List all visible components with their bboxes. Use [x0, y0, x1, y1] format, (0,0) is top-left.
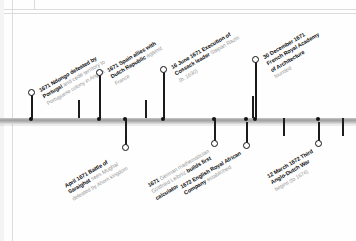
event-marker-royal-african: [243, 142, 250, 149]
connector-anglo-dutch: [318, 122, 320, 142]
event-marker-anglo-dutch: [315, 140, 322, 147]
event-marker-razin: [160, 66, 167, 73]
connector-ndongo: [31, 95, 33, 118]
page-rule-top: [0, 9, 356, 10]
axis-tick-4: [214, 118, 216, 140]
event-marker-french-academy: [252, 56, 259, 63]
connector-french-academy: [255, 62, 257, 118]
connector-royal-african: [246, 122, 248, 144]
event-label-anglo-dutch: 12 March 1672 Third Anglo-Dutch War begi…: [266, 148, 322, 193]
event-label-french-academy: 30 December 1671 French Royal Academy of…: [262, 25, 328, 80]
axis-tick-6: [283, 118, 285, 136]
event-label-saraighat: April 1671 Battle of Saraighat sees Mugh…: [63, 152, 128, 202]
axis-tick-3: [125, 118, 127, 136]
event-marker-spain-dutch: [96, 69, 103, 76]
axis-tick-1: [78, 100, 80, 118]
connector-spain-dutch: [99, 75, 101, 118]
connector-razin: [163, 72, 165, 118]
event-label-razin: 16 June 1671 Execution of Cossack leader…: [170, 28, 245, 84]
axis-tick-2: [145, 100, 147, 118]
event-label-spain-dutch: 1671 Spain allies with Dutch Republic ag…: [106, 39, 168, 87]
axis-tick-5: [252, 96, 254, 118]
timeline-axis-shadow: [0, 124, 356, 126]
axis-tick-7: [342, 118, 344, 136]
event-marker-ndongo: [28, 89, 35, 96]
page-rule-left-2: [34, 0, 35, 9]
page-rule-top-2: [0, 13, 356, 14]
timeline-canvas: 1671 Ndongo defeated by Portugal and ced…: [0, 0, 356, 241]
event-marker-leibniz: [211, 140, 218, 147]
event-marker-saraighat: [122, 144, 129, 151]
